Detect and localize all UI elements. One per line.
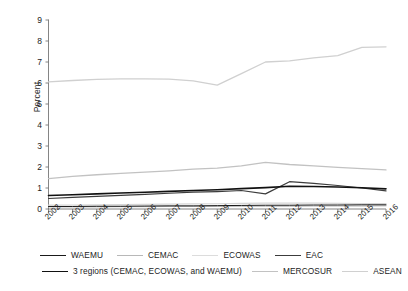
y-axis-tick-label: 7	[24, 57, 42, 67]
y-axis-tick-label: 3	[24, 141, 42, 151]
legend-label: ECOWAS	[223, 250, 260, 260]
y-axis-tick-label: 8	[24, 36, 42, 46]
legend-item-3-regions-cemac-ecowas-and-waemu[interactable]: 3 regions (CEMAC, ECOWAS, and WAEMU)	[42, 266, 242, 276]
legend-label: ASEAN	[373, 266, 402, 276]
legend-item-waemu[interactable]: WAEMU	[40, 250, 103, 260]
legend-label: MERCOSUR	[283, 266, 332, 276]
y-axis-tick-label: 6	[24, 78, 42, 88]
y-axis-tick-label: 9	[24, 15, 42, 25]
y-axis-tick-label: 2	[24, 162, 42, 172]
series-line-3-regions-cemac-ecowas-and-waemu	[49, 186, 387, 195]
legend-label: 3 regions (CEMAC, ECOWAS, and WAEMU)	[73, 266, 242, 276]
legend-row-1: WAEMUCEMACECOWASEAC	[40, 247, 406, 263]
legend-swatch-line-icon	[252, 271, 278, 272]
legend-item-eac[interactable]: EAC	[275, 250, 323, 260]
series-line-mercosur	[49, 162, 387, 178]
y-axis-tick-label: 1	[24, 183, 42, 193]
legend-item-mercosur[interactable]: MERCOSUR	[252, 266, 332, 276]
legend-label: EAC	[306, 250, 323, 260]
legend-swatch-line-icon	[342, 271, 368, 272]
series-line-asean	[49, 47, 387, 85]
legend-label: WAEMU	[71, 250, 103, 260]
legend-swatch-line-icon	[192, 255, 218, 256]
legend-swatch-line-icon	[42, 271, 68, 272]
legend-label: CEMAC	[148, 250, 178, 260]
y-axis-tick-label: 5	[24, 99, 42, 109]
legend-item-ecowas[interactable]: ECOWAS	[192, 250, 260, 260]
legend-swatch-line-icon	[40, 255, 66, 256]
legend-swatch-line-icon	[117, 255, 143, 256]
line-chart: Percent 0123456789 200220032004200520062…	[0, 0, 408, 291]
y-axis-tick-label: 0	[24, 204, 42, 214]
chart-legend: WAEMUCEMACECOWASEAC 3 regions (CEMAC, EC…	[40, 247, 406, 279]
legend-item-asean[interactable]: ASEAN	[342, 266, 402, 276]
legend-item-cemac[interactable]: CEMAC	[117, 250, 178, 260]
legend-row-2: 3 regions (CEMAC, ECOWAS, and WAEMU)MERC…	[40, 263, 406, 279]
legend-swatch-line-icon	[275, 255, 301, 256]
y-axis-tick-label: 4	[24, 120, 42, 130]
